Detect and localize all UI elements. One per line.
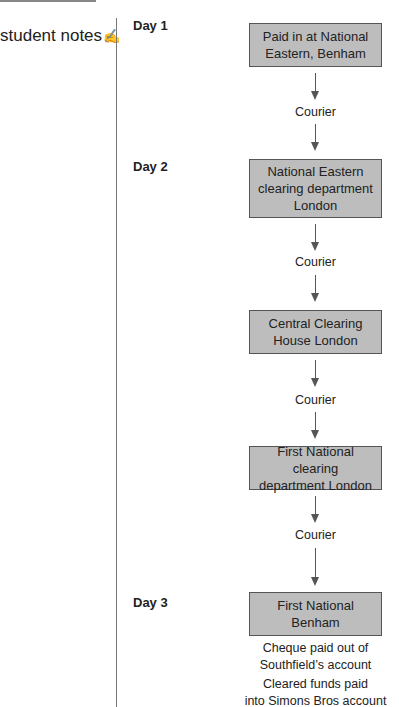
arrow-down-icon — [315, 275, 317, 302]
day-1-label: Day 1 — [133, 18, 168, 33]
node-line: Eastern, Benham — [259, 45, 373, 62]
flow-node-first-national-benham: First National Benham — [249, 592, 382, 636]
node-line: First National — [273, 597, 358, 614]
flow-node-central-clearing-house: Central Clearing House London — [249, 310, 382, 354]
day-3-label: Day 3 — [133, 595, 168, 610]
note-line: Southfield’s account — [249, 657, 382, 674]
day-2-label: Day 2 — [133, 159, 168, 174]
node-line: London — [254, 197, 377, 214]
node-line: Paid in at National — [259, 28, 373, 45]
student-notes-heading: student notes✍ — [0, 26, 120, 46]
edge-label-courier: Courier — [249, 527, 382, 544]
arrow-down-icon — [315, 548, 317, 586]
margin-divider — [116, 18, 117, 707]
note-cleared-funds: Cleared funds paid into Simons Bros acco… — [239, 676, 392, 707]
node-line: clearing department — [254, 180, 377, 197]
node-line: National Eastern — [254, 163, 377, 180]
note-line: Cheque paid out of — [249, 640, 382, 657]
node-line: Benham — [273, 614, 358, 631]
top-rule — [0, 0, 96, 2]
node-line: House London — [265, 332, 367, 349]
edge-label-courier: Courier — [249, 392, 382, 409]
arrow-down-icon — [315, 73, 317, 100]
edge-label-courier: Courier — [249, 104, 382, 121]
note-cheque-paid-out: Cheque paid out of Southfield’s account — [249, 640, 382, 674]
arrow-down-icon — [315, 124, 317, 151]
arrow-down-icon — [315, 360, 317, 387]
arrow-down-icon — [315, 496, 317, 523]
note-line: Cleared funds paid — [239, 676, 392, 693]
node-line: Central Clearing — [265, 315, 367, 332]
arrow-down-icon — [315, 224, 317, 251]
student-notes-label: student notes — [0, 26, 102, 45]
node-line: First National clearing — [254, 443, 377, 477]
pencil-notes-icon: ✍ — [103, 28, 120, 44]
flow-node-paid-in: Paid in at National Eastern, Benham — [249, 23, 382, 67]
flow-node-national-eastern-clearing: National Eastern clearing department Lon… — [249, 159, 382, 218]
node-line: department London — [254, 477, 377, 494]
note-line: into Simons Bros account — [239, 693, 392, 707]
flow-node-first-national-clearing: First National clearing department Londo… — [249, 446, 382, 490]
edge-label-courier: Courier — [249, 254, 382, 271]
arrow-down-icon — [315, 412, 317, 439]
